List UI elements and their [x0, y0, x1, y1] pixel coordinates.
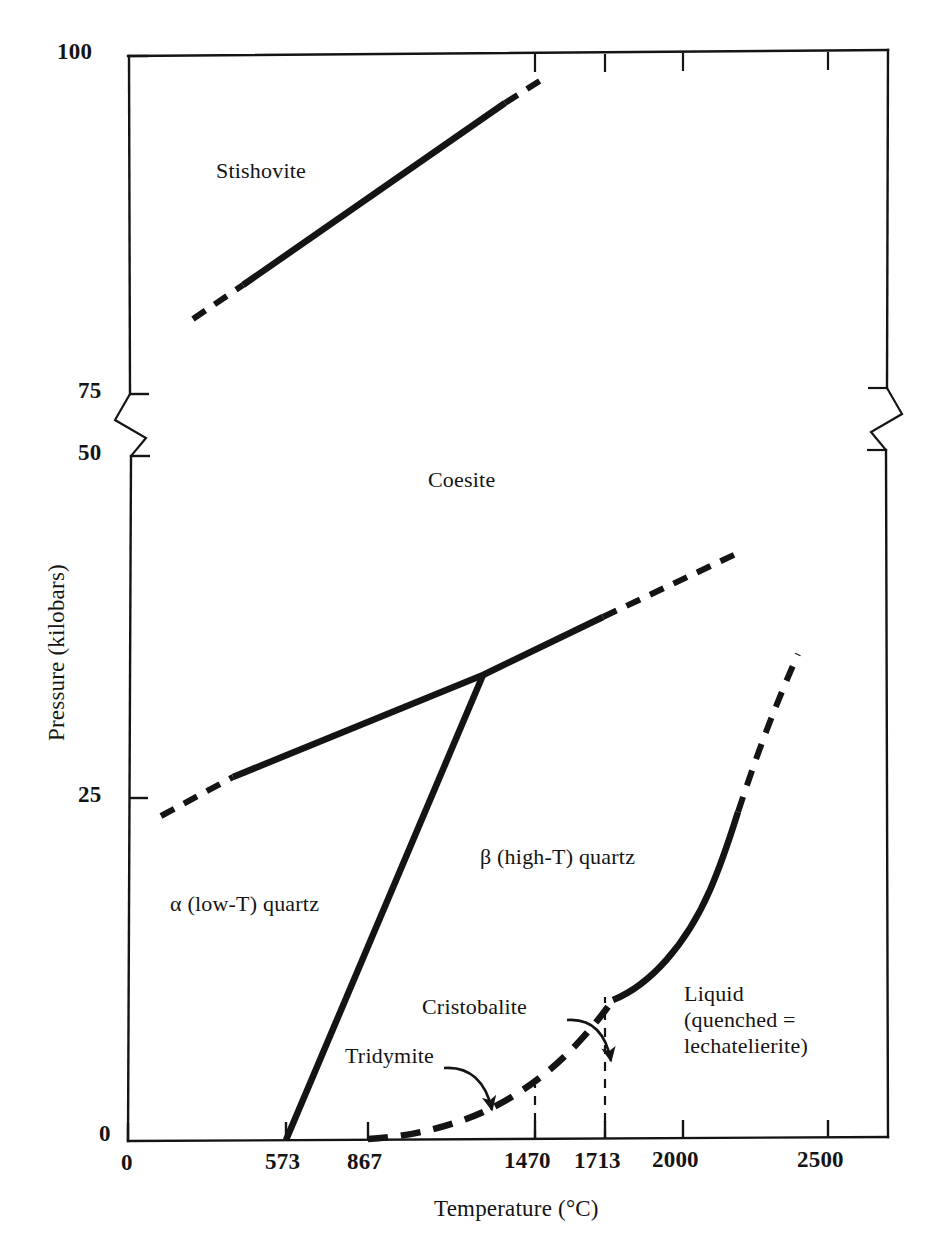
quartz-coesite-dashed-low: [161, 777, 233, 816]
phase-diagram-figure: 100 75 50 25 0 0 573 867 1470 1713 2000 …: [0, 0, 927, 1254]
x-tick-label-1470: 1470: [504, 1148, 551, 1174]
x-tick-label-573: 573: [265, 1149, 300, 1175]
region-label-alpha-quartz: α (low-T) quartz: [170, 891, 319, 917]
quartz-coesite-boundary: [161, 553, 738, 816]
y-tick-label-0: 0: [99, 1121, 111, 1147]
x-axis-ticks-top: [535, 52, 828, 72]
y-axis-break-left: [115, 394, 146, 456]
x-tick-label-0: 0: [121, 1150, 133, 1176]
quartz-coesite-solid: [233, 617, 603, 777]
region-label-liquid: Liquid (quenched = lechatelierite): [684, 981, 808, 1059]
annotation-label-cristobalite: Cristobalite: [422, 994, 527, 1020]
annotation-label-tridymite: Tridymite: [345, 1043, 434, 1069]
region-label-beta-quartz: β (high-T) quartz: [480, 844, 635, 870]
top-frame-line: [128, 50, 888, 56]
region-label-stishovite: Stishovite: [216, 158, 306, 184]
melting-curve-solid: [613, 812, 738, 1000]
y-tick-label-75: 75: [78, 378, 101, 404]
coesite-stishovite-dashed-high: [505, 77, 546, 103]
y-tick-label-100: 100: [57, 39, 92, 65]
x-tick-label-1713: 1713: [574, 1148, 621, 1174]
x-tick-label-867: 867: [347, 1149, 382, 1175]
y-axis-right-lower: [886, 450, 888, 1137]
region-label-coesite: Coesite: [428, 467, 495, 493]
coesite-stishovite-boundary: [193, 77, 546, 319]
x-axis-title: Temperature (°C): [434, 1196, 599, 1222]
melting-curve: [613, 654, 798, 1000]
coesite-stishovite-dashed-low: [193, 285, 243, 319]
cristobalite-arrow: [567, 1020, 611, 1061]
melting-curve-dashed: [738, 654, 798, 812]
y-axis-title: Pressure (kilobars): [44, 564, 70, 741]
x-tick-label-2500: 2500: [797, 1147, 844, 1173]
x-axis-line: [128, 1137, 888, 1141]
tridymite-arrow: [444, 1068, 492, 1110]
coesite-stishovite-solid: [243, 103, 505, 285]
invariant-reference-lines: [535, 997, 605, 1139]
y-axis-right-upper: [887, 50, 888, 388]
y-tick-label-25: 25: [78, 782, 101, 808]
diagram-canvas: [0, 0, 927, 1254]
x-tick-label-2000: 2000: [652, 1147, 699, 1173]
y-axis-ticks: [129, 56, 150, 798]
y-axis-break-right: [871, 388, 902, 450]
y-axis-upper: [129, 56, 130, 394]
y-tick-label-50: 50: [78, 440, 101, 466]
plot-frame: [115, 50, 902, 1141]
quartz-coesite-dashed-high: [603, 553, 738, 617]
